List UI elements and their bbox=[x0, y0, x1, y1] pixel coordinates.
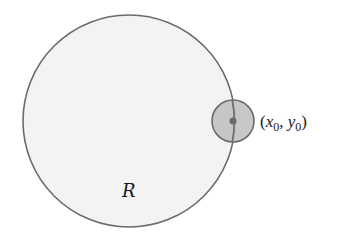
point-coordinate-label: (x0, y0) bbox=[260, 112, 307, 134]
diagram-canvas: R (x0, y0) bbox=[0, 0, 345, 238]
boundary-point-dot bbox=[230, 118, 237, 125]
region-label: R bbox=[121, 180, 136, 201]
